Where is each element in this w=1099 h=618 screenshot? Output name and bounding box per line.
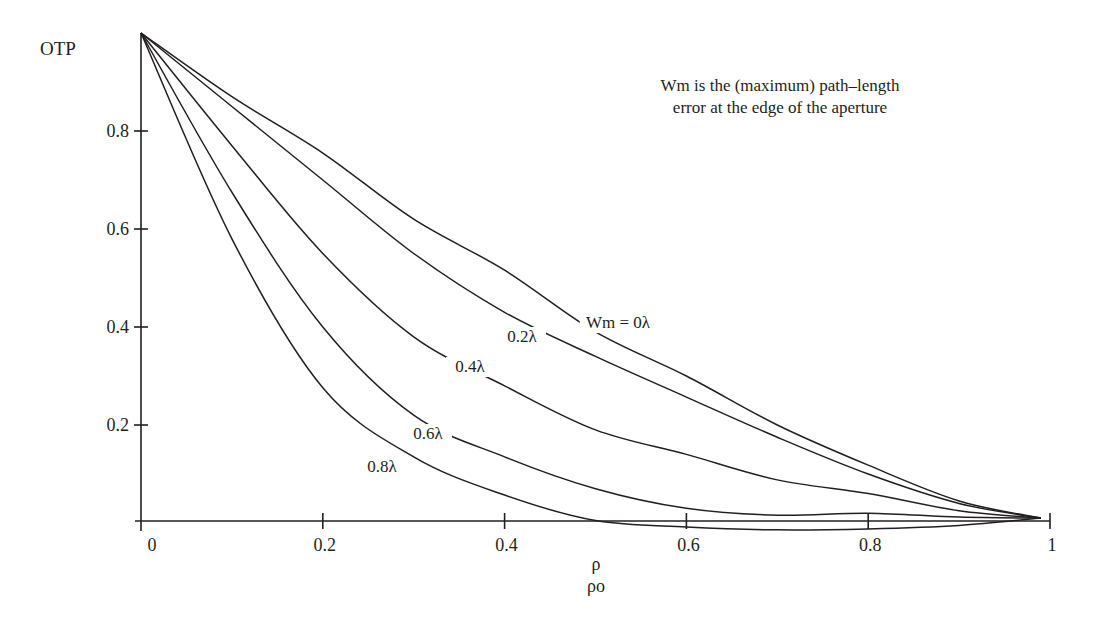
annotation-line-1: Wm is the (maximum) path–length <box>661 76 900 95</box>
annotation-line-2: error at the edge of the aperture <box>673 98 887 117</box>
y-tick-label: 0.4 <box>107 317 130 337</box>
curve-label: Wm = 0λ <box>586 313 651 332</box>
x-axis-sublabel: ρo <box>587 576 605 596</box>
curve-0-2 <box>141 33 1041 518</box>
x-axis-label: ρ <box>592 554 601 574</box>
y-axis-label: OTP <box>40 38 76 59</box>
y-tick-label: 0.2 <box>107 415 130 435</box>
x-tick-label: 1 <box>1048 535 1057 555</box>
y-tick-label: 0.8 <box>107 121 130 141</box>
curve-Wm0 <box>141 33 1041 518</box>
curve-0-4 <box>141 33 1041 518</box>
curve-label: 0.6λ <box>413 424 443 443</box>
curve-labels: Wm = 0λ0.2λ0.4λ0.6λ0.8λ <box>358 313 656 477</box>
curve-label: 0.8λ <box>367 457 397 476</box>
curve-label: 0.4λ <box>455 357 485 376</box>
x-tick-label: 0 <box>148 535 157 555</box>
x-tick-label: 0.8 <box>859 535 882 555</box>
x-tick-label: 0.6 <box>677 535 700 555</box>
y-tick-label: 0.6 <box>107 219 130 239</box>
curve-0-6 <box>141 33 1041 518</box>
x-tick-label: 0.2 <box>314 535 337 555</box>
curve-0-8 <box>141 33 1041 530</box>
x-tick-label: 0.4 <box>495 535 518 555</box>
otp-chart: 0.20.40.60.800.20.40.60.81 Wm = 0λ0.2λ0.… <box>0 0 1099 618</box>
curve-label: 0.2λ <box>507 327 537 346</box>
curves <box>141 33 1041 530</box>
axes: 0.20.40.60.800.20.40.60.81 <box>107 33 1057 555</box>
